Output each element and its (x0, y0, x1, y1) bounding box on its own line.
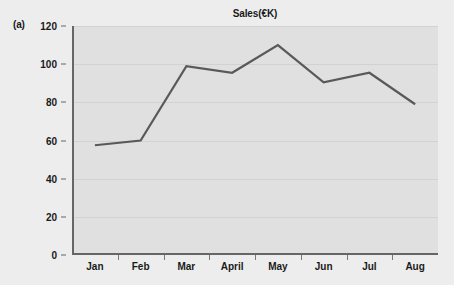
x-tick-label: Jan (86, 261, 103, 272)
x-tick-label: May (268, 261, 287, 272)
x-tick-label: Jul (362, 261, 376, 272)
y-tick-label: 100 (40, 59, 57, 70)
y-tick-label: 40 (46, 173, 57, 184)
x-tick-mark (347, 255, 348, 260)
y-tick-mark (61, 102, 66, 103)
x-tick-mark (392, 255, 393, 260)
y-tick-mark (61, 64, 66, 65)
y-tick-label: 0 (51, 250, 57, 261)
sales-line-series (72, 26, 438, 255)
y-tick-mark (61, 140, 66, 141)
x-tick-label: April (221, 261, 244, 272)
x-tick-mark (118, 255, 119, 260)
y-tick-mark (61, 216, 66, 217)
y-tick-mark (61, 255, 66, 256)
x-tick-label: Aug (405, 261, 424, 272)
sales-line-path (95, 45, 415, 145)
y-tick-label: 120 (40, 21, 57, 32)
x-tick-mark (301, 255, 302, 260)
x-tick-mark (164, 255, 165, 260)
chart-title: Sales(€K) (72, 8, 438, 19)
y-tick-label: 80 (46, 97, 57, 108)
x-tick-label: Jun (315, 261, 333, 272)
x-tick-label: Feb (132, 261, 150, 272)
y-tick-mark (61, 178, 66, 179)
chart-figure: (a) Sales(€K) 020406080100120 JanFebMarA… (0, 0, 454, 285)
x-axis: JanFebMarAprilMayJunJulAug (72, 261, 438, 279)
y-tick-label: 60 (46, 135, 57, 146)
y-tick-label: 20 (46, 211, 57, 222)
x-tick-mark (209, 255, 210, 260)
y-axis: 020406080100120 (0, 26, 66, 255)
x-tick-label: Mar (177, 261, 195, 272)
y-tick-mark (61, 26, 66, 27)
x-tick-mark (255, 255, 256, 260)
